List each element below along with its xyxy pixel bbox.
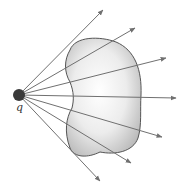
point-charge: [13, 89, 25, 101]
gauss-law-diagram: q: [0, 0, 184, 192]
charge-label: q: [16, 101, 23, 114]
